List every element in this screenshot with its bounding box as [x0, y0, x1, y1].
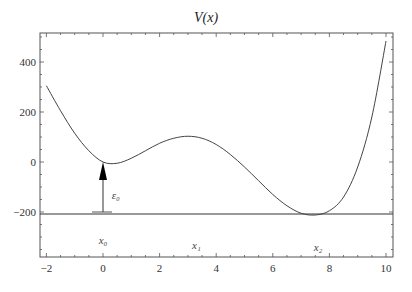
svg-text:200: 200	[20, 106, 37, 118]
potential-curve	[46, 41, 386, 215]
svg-text:6: 6	[270, 262, 276, 274]
epsilon-arrow	[92, 162, 112, 212]
svg-text:−200: −200	[13, 206, 36, 218]
svg-text:10: 10	[381, 262, 393, 274]
svg-text:ε₀: ε₀	[112, 189, 120, 201]
svg-text:x₀: x₀	[98, 234, 108, 246]
svg-text:0: 0	[31, 156, 37, 168]
svg-text:x₁: x₁	[191, 239, 201, 251]
axis-tick-labels: −20246810−2000200400	[13, 56, 392, 274]
svg-text:8: 8	[327, 262, 333, 274]
svg-text:2: 2	[157, 262, 163, 274]
svg-text:4: 4	[213, 262, 219, 274]
potential-chart: V(x) −20246810−2000200400 x₀x₁x₂ε₀	[0, 0, 412, 292]
svg-text:x₂: x₂	[313, 241, 323, 253]
svg-text:−2: −2	[41, 262, 53, 274]
annotations: x₀x₁x₂ε₀	[98, 189, 323, 254]
svg-text:0: 0	[100, 262, 106, 274]
chart-title: V(x)	[194, 10, 218, 26]
svg-text:400: 400	[20, 56, 37, 68]
